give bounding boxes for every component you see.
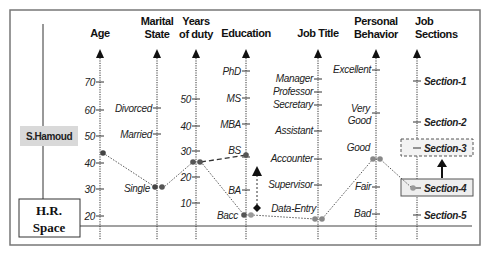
header-sections-2: Sections (415, 28, 458, 40)
header-sections-1: Job (415, 15, 434, 27)
point-education[interactable] (241, 212, 247, 218)
tick-years: 30 (180, 146, 191, 157)
tick-behavior: Very (351, 103, 371, 114)
tick-age: 20 (83, 211, 95, 222)
root-box[interactable]: H.R. Space (19, 199, 80, 237)
point-marital[interactable] (152, 184, 158, 190)
hr-space-diagram: S.Hamoud H.R. Space Age Marital State Ye… (0, 0, 486, 256)
header-years-2: of duty (179, 28, 214, 40)
entity-label[interactable]: S.Hamoud (20, 126, 78, 146)
tick-behavior: Fair (355, 181, 372, 192)
tick-education: MS (227, 93, 242, 104)
header-marital-1: Marital (141, 15, 174, 27)
tick-education: Bacc (217, 210, 238, 221)
svg-text:S.Hamoud: S.Hamoud (26, 131, 73, 142)
tick-age: 30 (84, 184, 95, 195)
header-job-title: Job Title (297, 27, 339, 39)
tick-behavior: Good (348, 115, 372, 126)
tick-age: 70 (84, 77, 95, 88)
header-education: Education (221, 27, 271, 39)
tick-job-title: Assistant (274, 125, 314, 136)
tick-years: 50 (180, 94, 191, 105)
svg-text:H.R.: H.R. (36, 203, 62, 218)
tick-years: 10 (180, 198, 191, 209)
header-age: Age (90, 27, 110, 39)
tick-section: Section-1 (424, 76, 467, 87)
point-marital[interactable] (159, 184, 165, 190)
tick-section: Section-3 (424, 143, 467, 154)
tick-education: BS (228, 145, 241, 156)
tick-education: MBA (220, 119, 241, 130)
point-education[interactable] (248, 212, 254, 218)
svg-text:Space: Space (33, 220, 66, 235)
point-behavior[interactable] (370, 156, 376, 162)
tick-job-title: Professor (273, 86, 314, 97)
tick-marital: Married (120, 129, 153, 140)
tick-education: PhD (222, 66, 241, 77)
header-behavior-2: Behavior (354, 28, 399, 40)
point-job-title[interactable] (312, 216, 318, 222)
tick-marital: Divorced (115, 103, 153, 114)
tick-behavior: Bad (354, 208, 372, 219)
tick-job-title: Data-Entry (271, 203, 317, 214)
tick-section: Section-4 (424, 183, 467, 194)
tick-section: Section-2 (424, 117, 467, 128)
point-behavior[interactable] (377, 156, 383, 162)
tick-age: 40 (84, 158, 95, 169)
point-age[interactable] (100, 150, 106, 156)
tick-behavior: Good (347, 142, 371, 153)
tick-years: 40 (180, 121, 191, 132)
tick-section: Section-5 (424, 210, 467, 221)
tick-marital: Single (124, 183, 151, 194)
tick-years: 20 (179, 172, 191, 183)
tick-job-title: Accounter (270, 153, 314, 164)
point-job-title[interactable] (319, 216, 325, 222)
tick-age: 50 (84, 131, 95, 142)
point-years[interactable] (197, 159, 203, 165)
tick-job-title: Supervisor (268, 179, 314, 190)
tick-behavior: Excellent (333, 64, 372, 75)
tick-job-title: Manager (276, 73, 314, 84)
tick-job-title: Secretary (273, 99, 314, 110)
header-years-1: Years (182, 15, 210, 27)
header-behavior-1: Personal (354, 15, 398, 27)
point-years[interactable] (190, 159, 196, 165)
tick-education: BA (228, 185, 241, 196)
point-education-proposed[interactable] (243, 152, 249, 158)
header-marital-2: State (145, 28, 170, 40)
tick-age: 60 (84, 105, 95, 116)
point-section[interactable] (410, 185, 416, 191)
